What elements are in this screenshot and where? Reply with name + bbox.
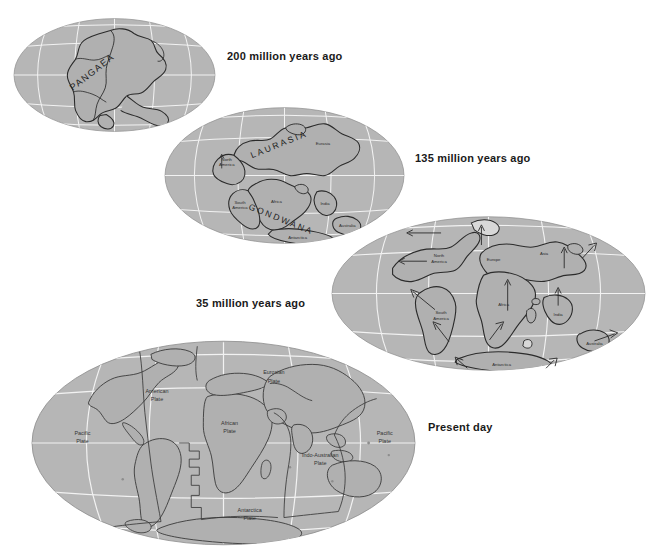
map-present-day: Pacific Plate Pacific Plate American Pla… [30, 338, 418, 550]
label-antarctica: Antarctica [492, 362, 511, 367]
label-indo-australian-plate-1: Indo-Australian [302, 452, 339, 458]
label-australia: Australia [586, 341, 603, 346]
label-eurasian-plate-2: Plate [268, 378, 280, 384]
label-africa: Africa [271, 199, 283, 204]
map-present-svg: Pacific Plate Pacific Plate American Pla… [30, 338, 418, 550]
label-pacific-plate-west-2: Plate [76, 438, 88, 444]
label-south-america-2: America [232, 205, 248, 210]
time-label-200my: 200 million years ago [227, 50, 342, 62]
label-american-plate-2: Plate [151, 396, 163, 402]
label-pacific-plate-east-2: Plate [379, 438, 391, 444]
label-eurasian-plate-1: Eurosian [263, 369, 284, 375]
label-antarctica-plate-1: Antarctica [238, 507, 263, 513]
label-american-plate-1: American [145, 388, 168, 394]
label-pacific-plate-west-1: Pacific [74, 430, 90, 436]
label-african-plate-2: Plate [223, 428, 235, 434]
label-antarctica-plate-2: Plate [243, 515, 255, 521]
label-north-america: North [434, 253, 445, 258]
label-asia: Asia [540, 251, 549, 256]
label-african-plate-1: African [221, 420, 238, 426]
label-south-america-2: America [433, 316, 449, 321]
label-india: India [320, 201, 330, 206]
label-india: India [554, 312, 564, 317]
continental-drift-figure: PANGAEA 200 million years ago [0, 0, 656, 552]
label-pacific-plate-east-1: Pacific [377, 430, 393, 436]
label-europe: Europe [487, 257, 501, 262]
time-label-135my: 135 million years ago [415, 152, 530, 164]
label-north-america-2: America [431, 259, 447, 264]
label-eurasia: Eurasia [316, 141, 331, 146]
label-south-america: South [436, 310, 448, 315]
label-antarctica: Antarctica [288, 235, 308, 240]
time-label-present-day: Present day [428, 421, 493, 433]
label-indo-australian-plate-2: Plate [314, 460, 326, 466]
time-label-35my: 35 million years ago [196, 297, 305, 309]
